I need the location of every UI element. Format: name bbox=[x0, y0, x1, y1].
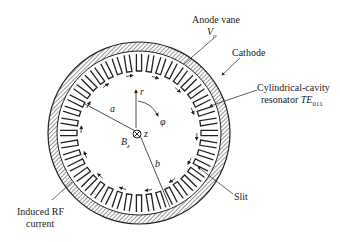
phi-label: φ bbox=[160, 116, 166, 127]
induced-rf-label-line1: Induced RF bbox=[17, 206, 64, 217]
vo-label: Vo bbox=[207, 26, 217, 42]
bz-label: Bz bbox=[121, 136, 130, 152]
slit-label: Slit bbox=[234, 191, 248, 202]
resonator-label-line2: resonator TE011 bbox=[261, 94, 323, 110]
induced-rf-label-line2: current bbox=[26, 218, 54, 229]
vo-subscript: o bbox=[213, 32, 217, 40]
resonator-label-line1: Cylindrical-cavity bbox=[257, 82, 330, 93]
resonator-word: resonator bbox=[261, 94, 301, 105]
r-label: r bbox=[140, 86, 144, 97]
te-mode: TE bbox=[301, 94, 313, 105]
a-label: a bbox=[110, 103, 115, 114]
te-subscript: 011 bbox=[312, 100, 322, 108]
z-label: z bbox=[144, 128, 148, 139]
anode-vane-label: Anode vane bbox=[192, 14, 240, 25]
cathode-label: Cathode bbox=[232, 47, 265, 58]
bz-symbol bbox=[133, 130, 141, 138]
b-label: b bbox=[155, 158, 160, 169]
bz-subscript: z bbox=[127, 142, 130, 150]
